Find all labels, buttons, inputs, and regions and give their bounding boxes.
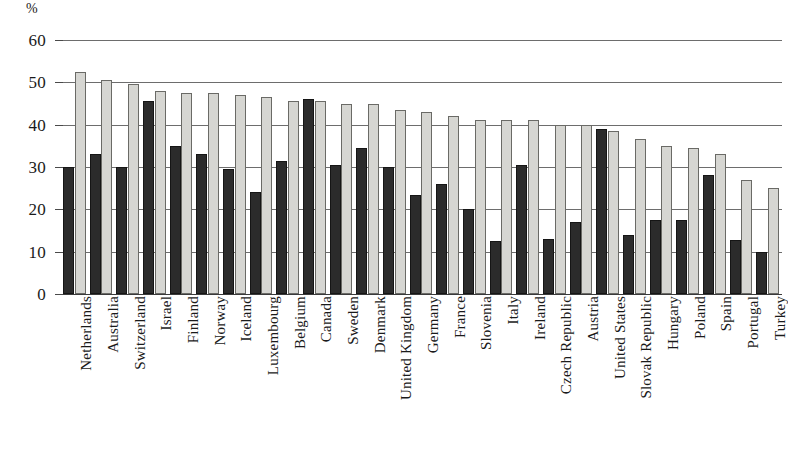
- bar-series-light: [208, 93, 219, 294]
- x-axis-label: Ireland: [533, 296, 548, 340]
- x-axis-baseline: [62, 294, 782, 295]
- bar-series-light: [581, 125, 592, 294]
- bar-group: [382, 40, 409, 294]
- bar-group: [409, 40, 436, 294]
- bar-group: [542, 40, 569, 294]
- bar-group: [329, 40, 356, 294]
- bar-series-light: [235, 95, 246, 294]
- x-axis-label-text: Poland: [693, 296, 708, 339]
- bar-series-light: [128, 84, 139, 294]
- bar-series-dark: [570, 222, 581, 294]
- bar-series-light: [181, 93, 192, 294]
- bar-series-light: [288, 101, 299, 294]
- x-axis-label: Spain: [719, 296, 734, 331]
- bar-series-dark: [143, 101, 154, 294]
- bar-series-light: [608, 131, 619, 294]
- y-tick-label-60: 60: [12, 32, 46, 49]
- x-axis-label: Turkey: [773, 296, 788, 340]
- bar-series-light: [688, 148, 699, 294]
- x-axis-label-text: Australia: [106, 296, 121, 353]
- bar-group: [249, 40, 276, 294]
- y-tick-label-30: 30: [12, 159, 46, 176]
- bar-series-light: [741, 180, 752, 294]
- y-tick-label-50: 50: [12, 74, 46, 91]
- bar-series-dark: [516, 165, 527, 294]
- bar-group: [489, 40, 516, 294]
- x-axis-label: Portugal: [746, 296, 761, 348]
- x-axis-label-text: Portugal: [746, 296, 761, 348]
- x-axis-label-text: Netherlands: [79, 296, 94, 371]
- x-axis-label: Iceland: [239, 296, 254, 342]
- bar-series-light: [261, 97, 272, 294]
- x-axis-label: Israel: [159, 296, 174, 331]
- bar-series-light: [555, 125, 566, 294]
- bar-series-dark: [170, 146, 181, 294]
- bar-group: [275, 40, 302, 294]
- bar-group: [462, 40, 489, 294]
- bar-series-light: [501, 120, 512, 294]
- x-axis-label-text: United Kingdom: [399, 296, 414, 400]
- bar-group: [622, 40, 649, 294]
- bar-series-light: [421, 112, 432, 294]
- bar-group: [755, 40, 782, 294]
- x-axis-label-text: Spain: [719, 296, 734, 331]
- bar-group: [142, 40, 169, 294]
- bar-series-dark: [490, 241, 501, 294]
- x-axis-label-text: Slovenia: [479, 296, 494, 350]
- bar-group: [675, 40, 702, 294]
- x-axis-labels: NetherlandsAustraliaSwitzerlandIsraelFin…: [62, 296, 782, 464]
- bar-series-light: [75, 72, 86, 294]
- y-tick-label-0: 0: [12, 286, 46, 303]
- x-axis-label-text: Slovak Republic: [639, 296, 654, 399]
- bar-series-dark: [756, 252, 767, 294]
- x-axis-label-text: Finland: [186, 296, 201, 343]
- bar-series-dark: [676, 220, 687, 294]
- x-axis-label-text: United States: [613, 296, 628, 379]
- x-axis-label: Czech Republic: [559, 296, 574, 394]
- bar-series-dark: [116, 167, 127, 294]
- bar-series-dark: [543, 239, 554, 294]
- bar-series-light: [368, 104, 379, 295]
- bar-series-dark: [276, 161, 287, 294]
- bar-series-dark: [703, 175, 714, 294]
- bar-series-dark: [383, 167, 394, 294]
- plot-area: [62, 40, 782, 294]
- x-axis-label: United Kingdom: [399, 296, 414, 400]
- x-axis-label: Australia: [106, 296, 121, 353]
- x-axis-label: Finland: [186, 296, 201, 343]
- bar-series-light: [661, 146, 672, 294]
- bar-series-dark: [623, 235, 634, 294]
- x-axis-label-text: Austria: [586, 296, 601, 342]
- x-axis-label-text: Belgium: [293, 296, 308, 349]
- x-axis-label-text: Germany: [426, 296, 441, 353]
- bar-series-light: [341, 104, 352, 295]
- bar-series-light: [448, 116, 459, 294]
- bar-series-dark: [650, 220, 661, 294]
- x-axis-label: United States: [613, 296, 628, 379]
- x-axis-label: Sweden: [346, 296, 361, 345]
- x-axis-label-text: Sweden: [346, 296, 361, 345]
- bar-group: [595, 40, 622, 294]
- bar-series-dark: [196, 154, 207, 294]
- bar-series-light: [715, 154, 726, 294]
- bar-series-light: [395, 110, 406, 294]
- bar-series-light: [101, 80, 112, 294]
- x-axis-label: Austria: [586, 296, 601, 342]
- bar-group: [569, 40, 596, 294]
- x-axis-label: Italy: [506, 296, 521, 325]
- bar-group: [89, 40, 116, 294]
- x-axis-label-text: France: [453, 296, 468, 338]
- bar-series-dark: [730, 240, 741, 294]
- x-axis-label: Poland: [693, 296, 708, 339]
- x-axis-label: Belgium: [293, 296, 308, 349]
- x-axis-label-text: Iceland: [239, 296, 254, 342]
- bar-series-dark: [356, 148, 367, 294]
- bar-group: [702, 40, 729, 294]
- bar-series-dark: [463, 209, 474, 294]
- bar-series-dark: [63, 167, 74, 294]
- x-axis-label-text: Turkey: [773, 296, 788, 340]
- bar-series-dark: [223, 169, 234, 294]
- y-tick-label-40: 40: [12, 117, 46, 134]
- bar-series-light: [635, 139, 646, 294]
- x-axis-label-text: Switzerland: [133, 296, 148, 370]
